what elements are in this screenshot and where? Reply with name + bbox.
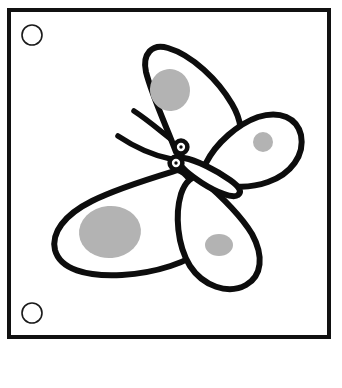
coloring-page: Butterfly Coloring Page bbox=[0, 0, 342, 388]
lower-right-wing-spot bbox=[205, 234, 233, 256]
head-upper-pupil bbox=[179, 145, 182, 148]
binder-hole-top bbox=[22, 25, 42, 45]
butterfly-artboard bbox=[0, 0, 342, 388]
upper-right-wing-spot bbox=[253, 132, 273, 152]
binder-hole-bottom bbox=[22, 303, 42, 323]
head-lower-pupil bbox=[174, 161, 177, 164]
